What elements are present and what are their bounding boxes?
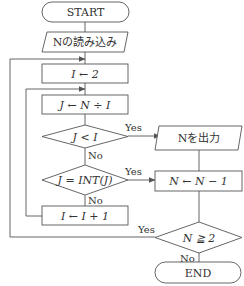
increment-i-label: I ← I + 1 bbox=[60, 210, 109, 223]
decrement-n-process: N ← N − 1 bbox=[155, 171, 242, 191]
input-n-parallelogram: Nの読み込み bbox=[42, 32, 128, 52]
output-n-parallelogram: Nを出力 bbox=[155, 126, 242, 150]
end-label: END bbox=[185, 267, 212, 280]
start-terminal: START bbox=[42, 2, 129, 22]
compute-j-label: J ← N ÷ I bbox=[58, 99, 111, 112]
decision-n-ge-2: N ≧ 2 Yes No bbox=[137, 222, 242, 264]
increment-i-process: I ← I + 1 bbox=[42, 206, 128, 225]
decision-j-lt-i: J < I Yes No bbox=[42, 122, 142, 161]
decision-j-int-label: J = INT(J) bbox=[56, 174, 113, 187]
start-label: START bbox=[67, 6, 105, 19]
no-label-2: No bbox=[88, 195, 103, 206]
init-i-label: I ← 2 bbox=[70, 68, 99, 81]
decision-j-int: J = INT(J) Yes No bbox=[42, 165, 142, 206]
yes-label-1: Yes bbox=[124, 122, 142, 133]
decision-n-ge-2-label: N ≧ 2 bbox=[182, 232, 216, 245]
end-terminal: END bbox=[155, 262, 241, 283]
yes-label-2: Yes bbox=[124, 166, 142, 177]
output-n-label: Nを出力 bbox=[178, 131, 221, 145]
decision-j-lt-i-label: J < I bbox=[71, 131, 99, 144]
input-n-label: Nの読み込み bbox=[53, 35, 118, 49]
flowchart: START Nの読み込み I ← 2 J ← N ÷ I J < I Yes N… bbox=[0, 0, 244, 286]
yes-label-3: Yes bbox=[137, 224, 155, 235]
compute-j-process: J ← N ÷ I bbox=[42, 95, 128, 114]
no-label-1: No bbox=[88, 150, 103, 161]
decrement-n-label: N ← N − 1 bbox=[168, 175, 228, 188]
init-i-process: I ← 2 bbox=[42, 64, 128, 83]
